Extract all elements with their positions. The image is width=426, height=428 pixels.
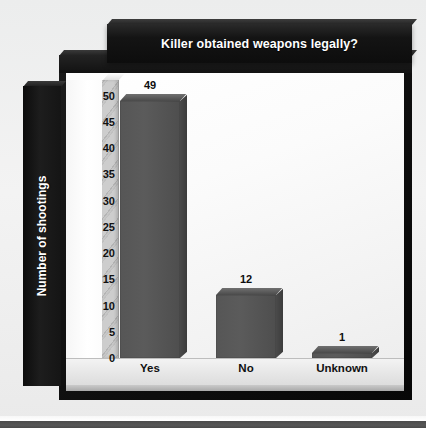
- bar-top-face: [312, 346, 378, 353]
- bar-value-label: 49: [114, 79, 186, 91]
- x-tick-label: Yes: [108, 362, 192, 374]
- y-tick-label: 15: [89, 274, 115, 284]
- y-tick-label: 40: [89, 143, 115, 153]
- y-tick-label: 30: [89, 196, 115, 206]
- y-tick-label: 10: [89, 301, 115, 311]
- plot-area: 50454035302520151050 49121 YesNoUnknown: [66, 73, 404, 391]
- bar-top-face: [120, 94, 186, 101]
- bar-top-face: [216, 288, 282, 295]
- bar-side-face: [180, 95, 187, 358]
- bar[interactable]: [120, 101, 180, 358]
- bottom-rule: [0, 421, 426, 428]
- chart-title: Killer obtained weapons legally?: [107, 24, 412, 63]
- y-tick-label: 5: [89, 327, 115, 337]
- x-axis-floor-edge: [66, 385, 404, 391]
- y-axis-title-text: Number of shootings: [35, 176, 49, 297]
- bar[interactable]: [216, 295, 276, 358]
- y-tick-label: 20: [89, 248, 115, 258]
- y-tick-label: 35: [89, 169, 115, 179]
- y-tick-label: 25: [89, 222, 115, 232]
- y-axis-title: Number of shootings: [23, 86, 61, 386]
- x-tick-label: Unknown: [300, 362, 384, 374]
- bar-side-face: [276, 289, 283, 358]
- x-tick-label: No: [204, 362, 288, 374]
- bar[interactable]: [312, 353, 372, 358]
- chart-screenshot: Killer obtained weapons legally? Number …: [0, 0, 426, 428]
- bar-value-label: 12: [210, 273, 282, 285]
- y-tick-label: 50: [89, 91, 115, 101]
- y-tick-label: 45: [89, 117, 115, 127]
- bar-value-label: 1: [306, 331, 378, 343]
